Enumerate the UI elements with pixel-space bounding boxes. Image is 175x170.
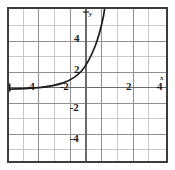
x-axis-label: x xyxy=(160,75,164,82)
y-tick-label-neg2: -2 xyxy=(70,102,79,113)
x-tick-label-neg4: -4 xyxy=(26,81,35,92)
x-tick-label-pos2: 2 xyxy=(126,81,131,92)
y-tick-label-pos4: 4 xyxy=(74,33,79,44)
y-axis-label: y xyxy=(89,11,92,18)
y-tick-label-neg4: -4 xyxy=(70,133,79,144)
x-tick-label-pos4: 4 xyxy=(157,81,162,92)
y-tick-label-pos2: 2 xyxy=(74,64,79,75)
x-tick-label-neg2: -2 xyxy=(60,81,69,92)
coordinate-plane-figure: -4 -2 2 4 4 2 -2 -4 y x xyxy=(0,0,175,170)
